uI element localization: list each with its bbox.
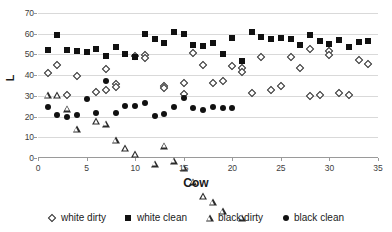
data-point-filled-square [258,34,264,40]
data-point-open-diamond [102,64,110,72]
legend-label: white clean [137,213,187,223]
data-point-open-triangle [121,144,129,151]
data-point-open-diamond [179,79,187,87]
x-tick-label: 10 [131,163,140,173]
gridline [38,13,378,14]
x-tick-label: 30 [325,163,334,173]
data-point-filled-square [326,41,332,47]
data-point-filled-square [356,39,362,45]
x-tick-mark [87,158,88,161]
y-tick-mark [34,75,37,76]
legend-item[interactable]: white dirty [48,213,106,223]
data-point-open-diamond [267,86,275,94]
data-point-open-triangle [92,117,100,124]
data-point-filled-circle [210,104,216,110]
data-point-open-diamond [160,83,168,91]
legend-item[interactable]: black clean [281,213,344,223]
data-point-filled-square [288,36,294,42]
y-tick-mark [34,54,37,55]
legend-marker-filled-circle [281,214,290,223]
gridline [38,34,378,35]
data-point-filled-square [74,48,80,54]
legend-item[interactable]: white clean [124,213,187,223]
data-point-filled-square [229,35,235,41]
x-tick-mark [281,158,282,161]
y-tick-mark [34,117,37,118]
data-point-open-diamond [131,52,139,60]
y-tick-label: 0 [4,153,34,163]
y-axis-ticks: 010203040506070 [0,13,34,158]
x-tick-label: 15 [179,163,188,173]
data-point-open-diamond [189,49,197,57]
data-point-filled-square [346,44,352,50]
x-tick-label: 35 [373,163,382,173]
data-point-filled-square [45,47,51,53]
data-point-open-triangle [160,142,168,149]
data-point-open-diamond [277,82,285,90]
y-tick-label: 70 [4,8,34,18]
gridline [38,54,378,55]
data-point-filled-square [113,44,119,50]
data-point-open-triangle [73,126,81,133]
data-point-open-triangle [199,192,207,199]
x-tick-label: 20 [228,163,237,173]
y-tick-label: 30 [4,91,34,101]
data-point-filled-circle [142,100,148,106]
x-tick-mark [232,158,233,161]
x-tick-label: 0 [36,163,41,173]
data-point-filled-square [297,42,303,48]
data-point-filled-circle [84,96,90,102]
data-point-open-diamond [48,214,56,222]
data-point-filled-square [93,46,99,52]
data-point-filled-circle [132,103,138,109]
data-point-filled-square [307,32,313,38]
x-axis-ticks: 05101520253035 [38,158,378,174]
x-tick-mark [378,158,379,161]
data-point-open-diamond [345,90,353,98]
data-point-filled-circle [229,105,235,111]
data-point-open-triangle [63,105,71,112]
data-point-open-diamond [102,85,110,93]
y-tick-mark [34,34,37,35]
data-point-open-diamond [354,55,362,63]
data-point-filled-circle [171,104,177,110]
data-point-filled-square [125,215,131,221]
legend-label: black clean [294,213,344,223]
data-point-filled-square [336,37,342,43]
data-point-filled-square [152,36,158,42]
data-point-filled-square [200,43,206,49]
gridline [38,137,378,138]
y-tick-mark [34,96,37,97]
data-point-filled-circle [220,105,226,111]
gridline [38,75,378,76]
data-point-open-diamond [111,83,119,91]
data-point-filled-circle [190,105,196,111]
data-point-filled-square [268,36,274,42]
scatter-chart: L 010203040506070 05101520253035 Cow whi… [0,0,392,232]
data-point-filled-circle [200,107,206,113]
data-point-filled-square [365,38,371,44]
data-point-open-diamond [228,62,236,70]
legend-item[interactable]: black dirty [205,213,263,223]
data-point-filled-square [239,58,245,64]
y-tick-mark [34,158,37,159]
legend-marker-filled-square [124,214,133,223]
data-point-open-diamond [179,90,187,98]
data-point-open-diamond [209,79,217,87]
data-point-filled-square [317,38,323,44]
data-point-filled-square [161,40,167,46]
data-point-filled-square [64,47,70,53]
y-tick-label: 60 [4,29,34,39]
data-point-open-diamond [364,60,372,68]
data-point-open-diamond [306,45,314,53]
data-point-open-triangle [209,199,217,206]
chart-legend: white dirtywhite cleanblack dirtyblack c… [0,208,392,228]
data-point-filled-circle [283,215,289,221]
data-point-filled-square [210,40,216,46]
y-tick-mark [34,13,37,14]
data-point-open-triangle [102,120,110,127]
y-tick-mark [34,137,37,138]
data-point-filled-circle [45,104,51,110]
data-point-filled-square [190,42,196,48]
x-tick-label: 5 [84,163,89,173]
